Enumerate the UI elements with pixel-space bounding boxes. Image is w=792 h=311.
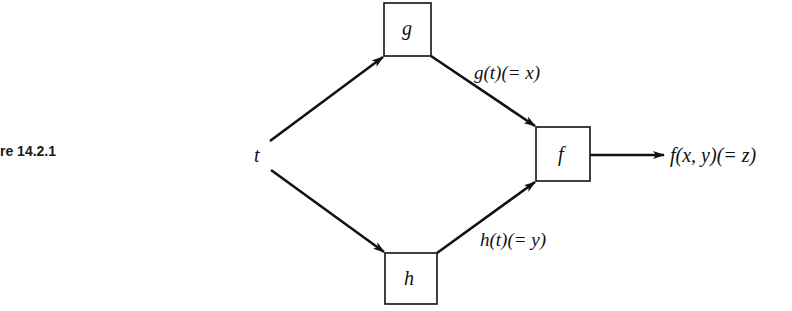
box-h-label: h: [404, 267, 414, 289]
node-g: g: [384, 3, 431, 56]
edge-t-to-g: [270, 57, 383, 141]
edge-t-to-h: [271, 170, 384, 252]
node-h: h: [385, 253, 437, 304]
composite-function-diagram: t g h f g(t)(= x) h(t)(= y) f(x, y)(= z): [0, 0, 792, 311]
box-g-label: g: [402, 17, 412, 40]
g-output-label: g(t)(= x): [474, 62, 540, 84]
f-output-label: f(x, y)(= z): [670, 144, 757, 167]
input-t-label: t: [254, 144, 260, 166]
h-output-label: h(t)(= y): [480, 229, 546, 251]
node-f: f: [536, 127, 590, 181]
